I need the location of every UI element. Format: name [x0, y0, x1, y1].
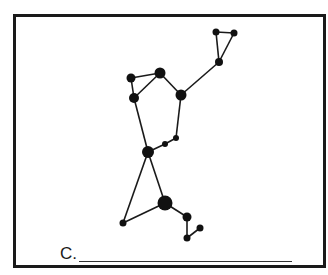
constellation-stars [120, 29, 238, 242]
star-icon [213, 29, 220, 36]
figure-label: C. [60, 245, 77, 262]
star-icon [129, 93, 139, 103]
constellation-line [219, 33, 234, 62]
star-icon [120, 220, 127, 227]
star-icon [142, 146, 154, 158]
constellation-line [176, 95, 181, 138]
constellation-line [181, 62, 219, 95]
constellation-line [134, 98, 148, 152]
star-icon [215, 58, 223, 66]
star-icon [127, 74, 136, 83]
answer-blank-line[interactable] [79, 245, 292, 262]
star-icon [173, 135, 179, 141]
star-icon [162, 141, 168, 147]
constellation-line [216, 32, 219, 62]
star-icon [183, 213, 192, 222]
constellation-diagram [0, 0, 328, 275]
star-icon [231, 30, 238, 37]
star-icon [197, 225, 204, 232]
star-icon [176, 90, 187, 101]
star-icon [184, 235, 191, 242]
constellation-line [148, 152, 165, 203]
star-icon [155, 68, 166, 79]
answer-row: C. [60, 242, 292, 262]
star-icon [158, 196, 173, 211]
